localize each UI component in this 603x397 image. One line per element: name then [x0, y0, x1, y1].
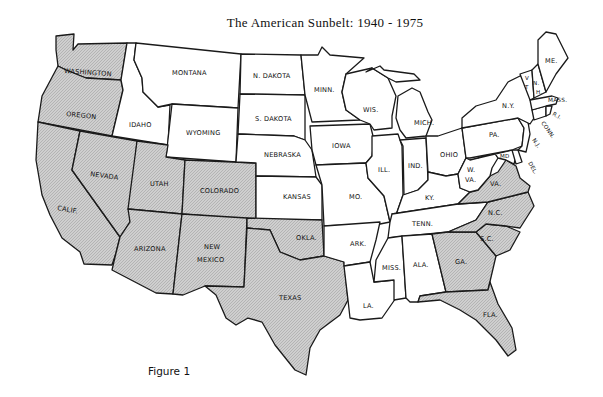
label-indiana: IND. — [408, 162, 423, 170]
state-michigan — [396, 88, 432, 138]
label-vermont-1: V — [525, 75, 529, 81]
label-north-carolina: N.C. — [488, 209, 503, 217]
label-utah: UTAH — [150, 180, 169, 188]
label-ohio: OHIO — [440, 151, 458, 159]
label-kansas: KANSAS — [283, 193, 311, 201]
label-idaho: IDAHO — [129, 121, 152, 129]
label-new-jersey: N.J. — [530, 137, 542, 149]
label-new-hampshire-2: H. — [536, 89, 542, 95]
label-north-dakota: N. DAKOTA — [253, 72, 291, 80]
state-rhode-island — [546, 106, 552, 116]
label-oklahoma: OKLA. — [296, 234, 317, 242]
label-massachusetts: MASS. — [548, 97, 567, 103]
label-virginia: VA. — [490, 180, 501, 188]
label-new-mexico-2: MEXICO — [197, 256, 224, 264]
label-south-carolina: S.C. — [480, 235, 494, 243]
label-nebraska: NEBRASKA — [264, 151, 301, 159]
label-new-hampshire-1: N. — [533, 80, 539, 86]
label-colorado: COLORADO — [200, 187, 239, 195]
label-florida: FLA. — [483, 311, 498, 319]
label-illinois: ILL. — [378, 166, 390, 174]
label-iowa: IOWA — [332, 142, 351, 150]
label-kentucky: KY. — [425, 194, 434, 202]
label-missouri: MO. — [349, 193, 362, 201]
label-maryland: MD — [500, 153, 510, 159]
us-sunbelt-map: WASHINGTON OREGON CALIF. NEVADA IDAHO MO… — [0, 0, 603, 397]
label-rhode-island: R.I. — [552, 111, 563, 121]
label-pennsylvania: PA. — [489, 131, 500, 139]
label-minnesota: MINN. — [314, 86, 335, 94]
label-connecticut: CONN. — [540, 120, 556, 139]
label-delaware: DEL. — [527, 161, 539, 176]
label-wisconsin: WIS. — [363, 106, 379, 114]
label-tennessee: TENN. — [411, 220, 433, 228]
label-wyoming: WYOMING — [186, 129, 220, 137]
label-west-virginia-1: W. — [467, 166, 475, 174]
label-mississippi: MISS. — [382, 264, 401, 272]
label-georgia: GA. — [455, 258, 467, 266]
label-vermont-2: T — [524, 84, 529, 90]
label-south-dakota: S. DAKOTA — [255, 115, 292, 123]
label-michigan: MICH. — [414, 119, 434, 127]
label-montana: MONTANA — [172, 69, 207, 77]
label-new-mexico-1: NEW — [204, 243, 220, 251]
state-new-mexico — [173, 214, 247, 295]
label-arkansas: ARK. — [350, 240, 366, 248]
label-alabama: ALA. — [413, 261, 429, 269]
label-west-virginia-2: VA. — [465, 176, 476, 184]
label-texas: TEXAS — [278, 294, 301, 302]
label-louisiana: LA. — [363, 302, 374, 310]
label-maine: ME. — [545, 57, 558, 65]
label-new-york: N.Y. — [502, 102, 515, 110]
figure-caption: Figure 1 — [148, 365, 190, 377]
label-arizona: ARIZONA — [134, 245, 166, 253]
